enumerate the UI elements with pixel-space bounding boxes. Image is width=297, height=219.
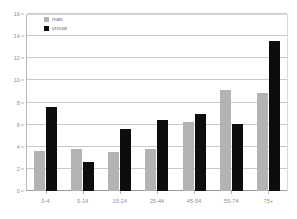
y-tickmark-12 [21,58,24,59]
x-tick-label: 15-24 [101,198,138,204]
x-tick-label: 75+ [250,198,287,204]
x-tickmark [157,191,158,194]
y-tick-label: 14 [14,33,20,39]
x-tick-label: 45-54 [176,198,213,204]
bar-vrouw-55-74[interactable] [232,124,243,191]
bar-group [176,14,213,191]
bar-vrouw-0-4[interactable] [46,107,57,191]
x-axis-slot: 5-14 [64,191,101,213]
y-tick-label: 4 [17,144,20,150]
x-axis-slot: 15-24 [101,191,138,213]
y-tickmark-10 [21,80,24,81]
bar-man-55-74[interactable] [220,90,231,191]
x-axis-slot: 55-74 [213,191,250,213]
x-tickmark [120,191,121,194]
y-tickmark-0 [21,191,24,192]
y-tickmark-8 [21,102,24,103]
legend-label: man [52,16,63,22]
x-tickmark [83,191,84,194]
bar-group [250,14,287,191]
bar-group [213,14,250,191]
y-tick-label: 10 [14,77,20,83]
y-tick-label: 2 [17,166,20,172]
y-tick-label: 12 [14,55,20,61]
x-tickmark [231,191,232,194]
bar-chart: 0246810121416 0-45-1415-2425-4445-5455-7… [0,0,297,219]
chart-legend: manvrouw [44,16,67,31]
y-tick-label: 6 [17,122,20,128]
bar-group [64,14,101,191]
y-tick-label: 0 [17,188,20,194]
y-tick-label: 8 [17,100,20,106]
bar-man-15-24[interactable] [108,152,119,191]
legend-swatch-gray-icon [44,17,49,22]
y-tickmark-2 [21,168,24,169]
x-axis-slot: 75+ [250,191,287,213]
bar-man-5-14[interactable] [71,149,82,191]
bar-man-75+[interactable] [257,93,268,191]
x-axis-slot: 45-54 [176,191,213,213]
bar-vrouw-15-24[interactable] [120,129,131,191]
bar-vrouw-5-14[interactable] [83,162,94,191]
y-tickmark-4 [21,146,24,147]
bar-man-25-44[interactable] [145,149,156,191]
legend-item-vrouw[interactable]: vrouw [44,25,67,31]
y-tick-label: 16 [14,11,20,17]
x-tick-label: 25-44 [138,198,175,204]
bar-vrouw-75+[interactable] [269,41,280,191]
legend-label: vrouw [52,25,67,31]
y-tickmark-16 [21,14,24,15]
x-axis-slot: 0-4 [27,191,64,213]
x-tick-label: 0-4 [27,198,64,204]
bar-group [27,14,64,191]
bar-man-0-4[interactable] [34,151,45,191]
x-tick-label: 5-14 [64,198,101,204]
y-tickmark-14 [21,36,24,37]
x-tickmark [268,191,269,194]
x-axis-slot: 25-44 [138,191,175,213]
x-tickmark [194,191,195,194]
x-tickmark [46,191,47,194]
bar-group [101,14,138,191]
bar-group [138,14,175,191]
x-axis: 0-45-1415-2425-4445-5455-7475+ [27,191,287,213]
bar-vrouw-45-54[interactable] [195,114,206,191]
bars-layer [27,14,287,191]
y-axis: 0246810121416 [0,14,24,191]
y-tickmark-6 [21,124,24,125]
legend-item-man[interactable]: man [44,16,67,22]
bar-vrouw-25-44[interactable] [157,120,168,191]
bar-man-45-54[interactable] [183,122,194,191]
x-tick-label: 55-74 [213,198,250,204]
legend-swatch-black-icon [44,26,49,31]
